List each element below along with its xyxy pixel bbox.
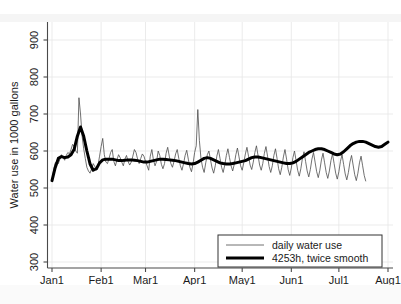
x-tick-label: Apr1 — [183, 274, 206, 286]
chart-figure: 300400500600700800900Jan1Feb1Mar1Apr1May… — [0, 0, 401, 304]
x-tick-label: Feb1 — [89, 274, 114, 286]
x-tick-label: Jun1 — [279, 274, 303, 286]
gridlines — [48, 22, 394, 268]
legend-label-daily: daily water use — [272, 239, 342, 251]
legend-label-smooth: 4253h, twice smooth — [272, 252, 368, 264]
y-axis-title-text: Water use in 1000 gallons — [8, 81, 20, 208]
y-tick-label: 500 — [28, 179, 40, 197]
y-tick-label: 300 — [28, 253, 40, 271]
y-tick-label: 700 — [28, 105, 40, 123]
x-tick-label: Aug1 — [375, 274, 401, 286]
water-use-time-series-chart: 300400500600700800900Jan1Feb1Mar1Apr1May… — [0, 0, 401, 304]
y-tick-label: 900 — [28, 31, 40, 49]
x-tick-label: Jul1 — [329, 274, 349, 286]
y-tick-label: 600 — [28, 142, 40, 160]
x-tick-label: Mar1 — [133, 274, 158, 286]
y-tick-label: 800 — [28, 68, 40, 86]
y-tick-label: 400 — [28, 216, 40, 234]
y-axis-title: Water use in 1000 gallons — [8, 81, 20, 208]
x-tick-label: Jan1 — [40, 274, 64, 286]
chart-legend[interactable]: daily water use4253h, twice smooth — [218, 235, 382, 267]
x-tick-label: May1 — [229, 274, 256, 286]
